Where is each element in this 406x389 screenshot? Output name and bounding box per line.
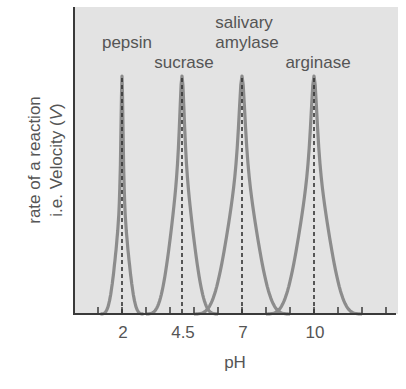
x-tick-label: 4.5 xyxy=(171,323,195,342)
y-axis-label: rate of a reaction i.e. Velocity (V) xyxy=(25,96,66,224)
x-tick-label: 7 xyxy=(238,323,247,342)
y-axis-label-line2: i.e. Velocity (V) xyxy=(47,103,66,216)
enzyme-label: amylase xyxy=(215,33,278,52)
enzyme-label: sucrase xyxy=(154,53,214,72)
enzyme-label: pepsin xyxy=(102,33,152,52)
x-tick-label: 2 xyxy=(118,323,127,342)
x-tick-labels: 24.5710 xyxy=(118,323,324,342)
x-axis-label: pH xyxy=(224,353,246,372)
enzyme-label: salivary xyxy=(215,13,273,32)
enzyme-label: arginase xyxy=(285,53,350,72)
x-tick-label: 10 xyxy=(306,323,325,342)
enzyme-ph-chart: 24.5710 pepsinsucrasesalivaryamylaseargi… xyxy=(0,0,406,389)
y-axis-label-line1: rate of a reaction xyxy=(25,96,44,224)
